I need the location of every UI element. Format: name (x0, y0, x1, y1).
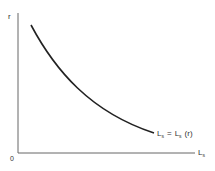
y-axis-label: r (8, 12, 11, 21)
diagram-svg: r 0 Ls Ls=Ls(r) (0, 0, 215, 171)
ls-curve (31, 25, 154, 133)
curve-label: Ls=Ls(r) (157, 129, 193, 139)
origin-label: 0 (10, 155, 14, 162)
diagram-canvas: r 0 Ls Ls=Ls(r) (0, 0, 215, 171)
x-axis-label: Ls (198, 148, 205, 158)
